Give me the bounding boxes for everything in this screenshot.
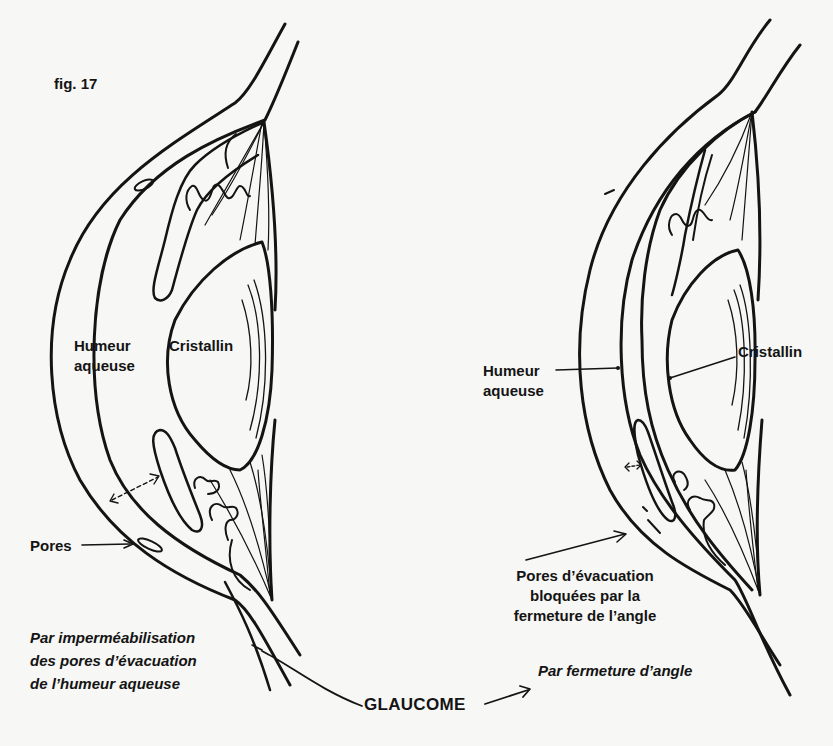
right-caption: Par fermeture d’angle [538, 661, 692, 680]
left-pores-label: Pores [30, 536, 72, 555]
left-lens-label: Cristallin [169, 336, 233, 355]
right-aqueous-humor-label-line1: Humeur [483, 361, 540, 380]
blocked-pores-label-line3: fermeture de l’angle [480, 606, 690, 625]
left-caption-line1: Par imperméabilisation [30, 628, 195, 647]
left-caption-line3: de l’humeur aqueuse [30, 674, 180, 693]
blocked-pores-label-line1: Pores d’évacuation [480, 566, 690, 585]
figure-number: fig. 17 [54, 74, 97, 93]
right-lens-label: Cristallin [738, 342, 802, 361]
right-aqueous-humor-label-line2: aqueuse [483, 381, 544, 400]
blocked-pores-label-line2: bloquées par la [480, 586, 690, 605]
left-caption-line2: des pores d’évacuation [30, 651, 197, 670]
left-aqueous-humor-label-line1: Humeur [74, 336, 131, 355]
glaucoma-title: GLAUCOME [364, 695, 466, 714]
left-aqueous-humor-label-line2: aqueuse [74, 356, 135, 375]
glaucoma-diagram: fig. 17 Humeur aqueuse Cristallin Pores … [0, 0, 833, 746]
